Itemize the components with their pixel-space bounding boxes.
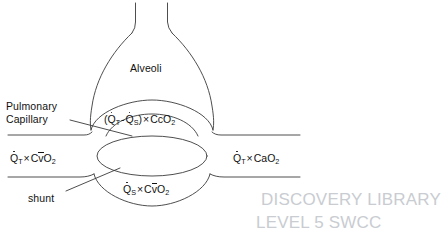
content-o: O — [157, 183, 165, 195]
content-subscript: 2 — [52, 157, 56, 166]
alveolus-right-wall — [172, 33, 214, 130]
q-shunt-symbol: Q — [123, 183, 131, 195]
shunt-leader — [66, 168, 120, 191]
q-total-subscript: T — [241, 157, 245, 166]
content-c: C — [31, 152, 39, 164]
q-shunt-symbol: Q — [126, 113, 134, 125]
multiplication-sign: × — [136, 183, 144, 195]
library-stamp-line-2: LEVEL 5 SWCC — [256, 213, 382, 228]
outflow-lower-wall — [210, 174, 300, 177]
mixed-venous-bar-symbol: v — [152, 183, 157, 195]
alveoli-label: Alveoli — [130, 62, 162, 74]
inflow-upper-wall — [8, 132, 92, 135]
outflow-upper-wall — [212, 132, 300, 135]
q-total-symbol: Q — [233, 152, 241, 164]
mixed-venous-bar-symbol: v — [38, 152, 43, 164]
q-total-symbol: Q — [108, 113, 116, 125]
multiplication-sign: × — [142, 113, 150, 125]
arterial-content-subscript: 2 — [275, 157, 279, 166]
library-stamp-line-1: DISCOVERY LIBRARY — [261, 190, 441, 210]
arterial-content-symbol: CaO — [254, 152, 276, 164]
airway-right-wall — [168, 3, 173, 33]
capillary-content-symbol: CcO — [150, 113, 171, 125]
content-o: O — [44, 152, 52, 164]
venous-inflow-formula: QT×CvO2 — [10, 152, 56, 166]
content-c: C — [144, 183, 152, 195]
arterial-outflow-formula: QT×CaO2 — [233, 152, 279, 166]
q-total-symbol: Q — [10, 152, 18, 164]
multiplication-sign: × — [246, 152, 254, 164]
capillary-content-subscript: 2 — [171, 118, 175, 127]
multiplication-sign: × — [23, 152, 31, 164]
pulmonary-capillary-label: Pulmonary Capillary — [6, 100, 72, 125]
capillary-flow-formula: (QT-QS)×CcO2 — [104, 113, 175, 127]
content-subscript: 2 — [165, 188, 169, 197]
airway-left-wall — [132, 3, 136, 33]
shunt-flow-formula: QS×CvO2 — [123, 183, 169, 197]
shunt-lumen-ellipse — [97, 136, 207, 176]
inflow-lower-wall — [8, 174, 94, 177]
shunt-label: shunt — [28, 192, 54, 204]
shunt-diagram: Alveoli Pulmonary Capillary shunt (QT-QS… — [0, 0, 448, 228]
q-total-subscript: T — [18, 157, 22, 166]
